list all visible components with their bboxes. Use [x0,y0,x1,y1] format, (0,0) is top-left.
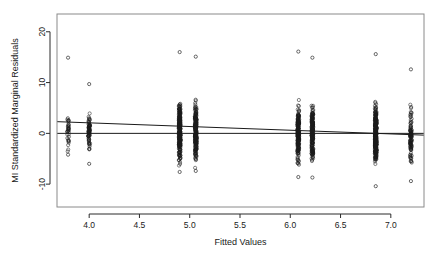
x-axis-tick-label: 5.0 [184,220,196,230]
x-axis-tick-label: 6.0 [284,220,296,230]
x-axis-tick-label: 5.5 [234,220,246,230]
x-axis-tick-label: 6.5 [335,220,347,230]
x-axis-label: Fitted Values [215,237,267,247]
residual-plot: 4.04.55.05.56.06.57.0 -1001020 Fitted Va… [0,0,440,259]
plot-canvas: 4.04.55.05.56.06.57.0 -1001020 Fitted Va… [0,0,440,259]
y-axis-tick-label: 20 [37,27,47,37]
y-axis-tick-label: 0 [37,131,47,136]
x-axis-tick-label: 4.5 [134,220,146,230]
y-axis-label: MI Standardized Marginal Residuals [10,38,20,183]
y-axis-tick-label: 10 [37,78,47,88]
y-axis-tick-label: -10 [37,178,47,191]
x-axis-tick-label: 7.0 [385,220,397,230]
x-axis-tick-label: 4.0 [83,220,95,230]
